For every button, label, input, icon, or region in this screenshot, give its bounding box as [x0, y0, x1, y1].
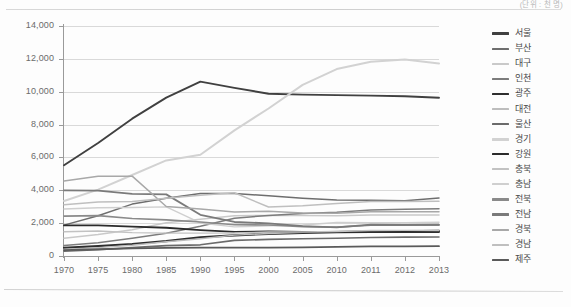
legend-item[interactable]: 울산 [492, 117, 568, 132]
legend-item-label: 서울 [515, 29, 531, 38]
legend-item[interactable]: 전북 [492, 192, 568, 207]
legend-item[interactable]: 대전 [492, 101, 568, 116]
legend-item-label: 경기 [515, 135, 531, 144]
legend-item-label: 충남 [515, 180, 531, 189]
legend-item[interactable]: 경남 [492, 237, 568, 252]
legend-color-swatch [492, 93, 509, 96]
legend-item-label: 광주 [515, 89, 531, 98]
series-line [64, 60, 439, 201]
legend-item-label: 충북 [515, 165, 531, 174]
chart-legend: 서울부산대구인천광주대전울산경기강원충북충남전북전남경북경남제주 [492, 26, 568, 268]
series-lines [0, 0, 571, 307]
legend-color-swatch [492, 244, 509, 246]
legend-item[interactable]: 충북 [492, 162, 568, 177]
legend-item-label: 강원 [515, 150, 531, 159]
legend-item-label: 전남 [515, 210, 531, 219]
legend-item[interactable]: 부산 [492, 41, 568, 56]
legend-color-swatch [492, 123, 509, 125]
legend-color-swatch [492, 183, 509, 185]
legend-item[interactable]: 강원 [492, 147, 568, 162]
legend-item[interactable]: 전남 [492, 207, 568, 222]
legend-item[interactable]: 인천 [492, 71, 568, 86]
legend-item[interactable]: 대구 [492, 56, 568, 71]
line-chart: 02,0004,0006,0008,00010,00012,00014,000 … [0, 0, 571, 307]
legend-color-swatch [492, 198, 509, 200]
legend-item[interactable]: 제주 [492, 252, 568, 267]
legend-color-swatch [492, 229, 509, 231]
legend-item[interactable]: 서울 [492, 26, 568, 41]
chart-page: (단위 : 천 명) 02,0004,0006,0008,00010,00012… [0, 0, 571, 307]
legend-item-label: 부산 [515, 44, 531, 53]
legend-item[interactable]: 경기 [492, 132, 568, 147]
legend-item-label: 제주 [515, 255, 531, 264]
legend-color-swatch [492, 32, 509, 35]
legend-color-swatch [492, 259, 509, 261]
legend-item-label: 울산 [515, 120, 531, 129]
legend-item[interactable]: 광주 [492, 86, 568, 101]
legend-color-swatch [492, 48, 509, 50]
legend-item-label: 인천 [515, 74, 531, 83]
legend-item-label: 대전 [515, 105, 531, 114]
legend-item-label: 전북 [515, 195, 531, 204]
legend-color-swatch [492, 78, 509, 80]
series-line [64, 82, 439, 166]
legend-color-swatch [492, 213, 509, 215]
legend-color-swatch [492, 168, 509, 170]
legend-item[interactable]: 충남 [492, 177, 568, 192]
legend-item[interactable]: 경북 [492, 222, 568, 237]
legend-color-swatch [492, 153, 509, 155]
legend-color-swatch [492, 108, 509, 110]
legend-color-swatch [492, 138, 509, 141]
legend-item-label: 경북 [515, 225, 531, 234]
legend-item-label: 대구 [515, 59, 531, 68]
legend-color-swatch [492, 63, 509, 65]
legend-item-label: 경남 [515, 240, 531, 249]
